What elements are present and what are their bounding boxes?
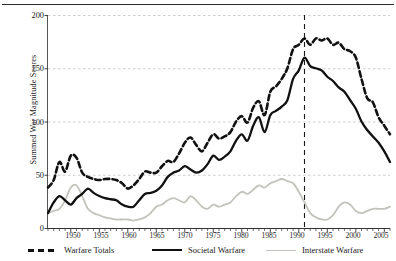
series-line-interstate-warfare xyxy=(48,179,390,221)
series-line-warfare-totals xyxy=(48,38,390,188)
gridlines xyxy=(48,16,390,176)
legend-item-societal-warfare[interactable]: Societal Warfare xyxy=(152,245,245,255)
legend-item-interstate-warfare[interactable]: Interstate Warfare xyxy=(266,245,363,255)
legend-label-interstate-warfare: Interstate Warfare xyxy=(302,245,363,255)
dashed-line-swatch-icon xyxy=(28,246,58,255)
light-line-swatch-icon xyxy=(266,246,296,255)
legend-label-warfare-totals: Warfare Totals xyxy=(64,245,114,255)
plot-area xyxy=(0,0,396,261)
series-line-societal-warfare xyxy=(48,58,390,214)
legend-label-societal-warfare: Societal Warfare xyxy=(188,245,245,255)
legend: Warfare Totals Societal Warfare Intersta… xyxy=(0,243,396,259)
legend-item-warfare-totals[interactable]: Warfare Totals xyxy=(28,245,114,255)
data-series-group xyxy=(48,38,390,220)
x-axis-ticks xyxy=(48,228,390,233)
war-magnitude-line-chart: Summed War Magnitude Scores 200 150 100 … xyxy=(0,0,396,261)
solid-line-swatch-icon xyxy=(152,246,182,255)
